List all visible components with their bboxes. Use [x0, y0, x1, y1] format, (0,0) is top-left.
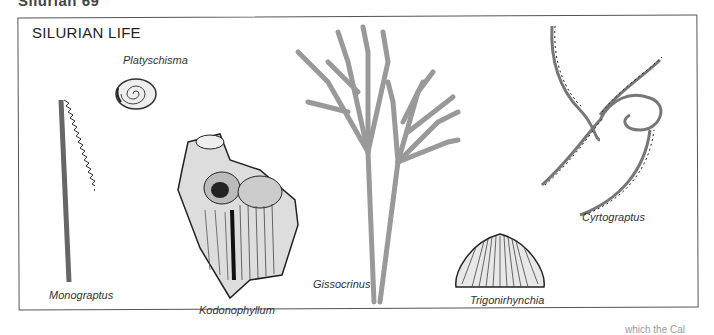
- page-header: Silurian 69: [18, 0, 99, 9]
- gissocrinus-illustration: [288, 22, 468, 312]
- label-platyschisma: Platyschisma: [123, 54, 188, 66]
- label-cyrtograptus: Cyrtograptus: [582, 211, 645, 223]
- footer-text-fragment: which the Cal: [625, 324, 685, 335]
- monograptus-illustration: [55, 96, 95, 286]
- label-kodonophyllum: Kodonophyllum: [199, 304, 275, 316]
- platyschisma-illustration: [113, 76, 159, 112]
- trigonirhynchia-illustration: [450, 232, 550, 292]
- label-monograptus: Monograptus: [49, 289, 113, 301]
- label-trigonirhynchia: Trigonirhynchia: [470, 294, 544, 306]
- label-gissocrinus: Gissocrinus: [313, 278, 370, 290]
- figure-title: SILURIAN LIFE: [32, 24, 141, 41]
- cyrtograptus-illustration: [540, 20, 690, 220]
